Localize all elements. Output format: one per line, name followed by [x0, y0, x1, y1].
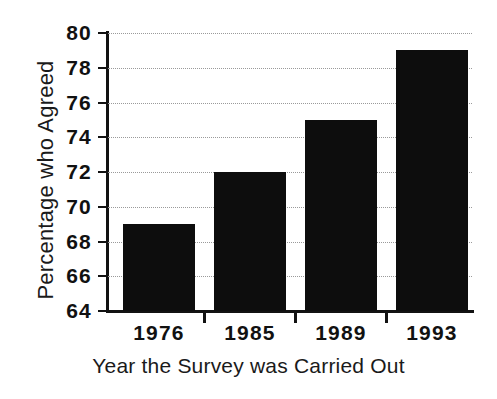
- y-tick-label: 64: [46, 300, 92, 321]
- gridline: [108, 33, 472, 34]
- bar: [396, 50, 468, 311]
- x-tick-label: 1989: [296, 320, 386, 346]
- y-tick-label-text: 80: [46, 22, 92, 43]
- y-tick-label-text: 74: [46, 126, 92, 147]
- y-tick-mark: [98, 136, 107, 138]
- y-tick-label: 74: [46, 126, 92, 147]
- y-tick-mark: [98, 206, 107, 208]
- y-tick-label: 78: [46, 57, 92, 78]
- y-tick-label: 72: [46, 161, 92, 182]
- y-tick-mark: [98, 310, 107, 312]
- bar: [305, 120, 377, 311]
- y-tick-label-text: 66: [46, 265, 92, 286]
- y-tick-mark: [98, 171, 107, 173]
- bar-chart: Percentage who Agreed 646668707274767880…: [0, 0, 497, 399]
- y-tick-mark: [98, 67, 107, 69]
- y-tick-label: 68: [46, 231, 92, 252]
- y-tick-label: 76: [46, 92, 92, 113]
- y-tick-mark: [98, 102, 107, 104]
- y-tick-label-text: 70: [46, 196, 92, 217]
- x-tick-label: 1976: [114, 320, 204, 346]
- bar: [214, 172, 286, 311]
- y-tick-label-text: 78: [46, 57, 92, 78]
- y-tick-label-text: 76: [46, 92, 92, 113]
- y-tick-label: 70: [46, 196, 92, 217]
- y-tick-mark: [98, 32, 107, 34]
- x-axis-title: Year the Survey was Carried Out: [0, 354, 497, 378]
- x-tick-label: 1985: [205, 320, 295, 346]
- y-tick-label-text: 72: [46, 161, 92, 182]
- x-tick-label: 1993: [387, 320, 477, 346]
- y-tick-mark: [98, 275, 107, 277]
- y-tick-label: 66: [46, 265, 92, 286]
- plot-area: [108, 33, 472, 311]
- bar: [123, 224, 195, 311]
- y-tick-label-text: 68: [46, 231, 92, 252]
- y-tick-mark: [98, 241, 107, 243]
- y-tick-label: 80: [46, 22, 92, 43]
- y-tick-label-text: 64: [46, 300, 92, 321]
